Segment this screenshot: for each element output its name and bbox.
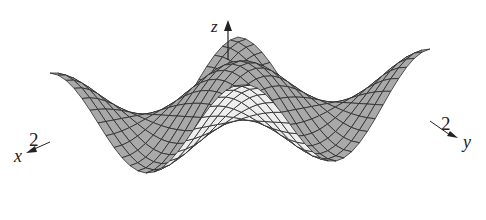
- z-axis-label: z: [210, 17, 218, 36]
- x-axis: 2 x: [13, 129, 50, 166]
- y-axis: 2 y: [430, 113, 471, 152]
- surface-plot: z 2 x 2 y: [0, 0, 486, 220]
- x-axis-label: x: [13, 146, 22, 166]
- wireframe-surface: [50, 37, 430, 173]
- y-axis-label: y: [461, 132, 471, 152]
- z-axis-arrow-icon: [224, 20, 232, 31]
- y-axis-tick-2: 2: [441, 113, 451, 134]
- x-axis-tick-2: 2: [29, 129, 39, 150]
